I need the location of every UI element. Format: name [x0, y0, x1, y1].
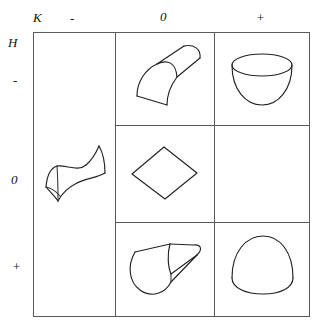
- row-axis-label: H: [8, 36, 17, 49]
- cell-ridge-cylinder: [115, 33, 214, 125]
- cell-bowl: [214, 33, 311, 125]
- saddle-icon: [34, 33, 115, 316]
- column-axis-label: K: [33, 11, 42, 24]
- figure-root: K - 0 + H - 0 +: [0, 0, 323, 328]
- cell-valley-cylinder: [115, 222, 214, 316]
- bowl-icon: [214, 33, 311, 125]
- valley-cylinder-icon: [115, 222, 214, 316]
- row-header-plus: +: [12, 260, 21, 273]
- ridge-cylinder-icon: [115, 33, 214, 125]
- column-header-minus: -: [70, 12, 74, 25]
- flat-plane-icon: [115, 125, 214, 222]
- cell-saddle: [34, 33, 115, 316]
- column-header-zero: 0: [160, 10, 167, 23]
- cell-flat-plane: [115, 125, 214, 222]
- row-header-zero: 0: [11, 173, 18, 186]
- row-header-minus: -: [13, 74, 17, 87]
- cell-empty-zero-plus: [214, 125, 311, 222]
- column-header-plus: +: [256, 11, 265, 24]
- dome-icon: [214, 222, 311, 316]
- cell-dome: [214, 222, 311, 316]
- matrix-grid: [33, 32, 310, 317]
